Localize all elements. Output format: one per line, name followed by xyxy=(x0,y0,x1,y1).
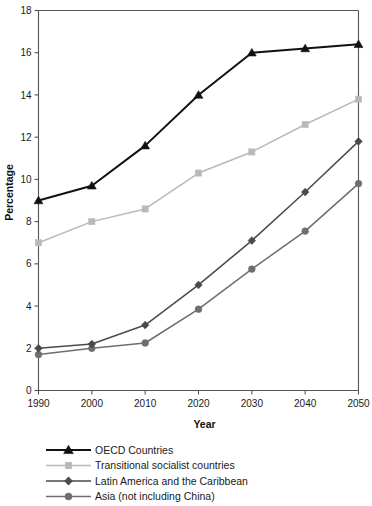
x-tick-label: 2020 xyxy=(187,398,210,409)
y-tick-label: 0 xyxy=(26,385,32,396)
legend-label: OECD Countries xyxy=(95,444,173,456)
data-point xyxy=(302,228,309,235)
data-point xyxy=(355,180,362,187)
plot-frame xyxy=(39,11,359,391)
y-tick-label: 4 xyxy=(26,301,32,312)
axis-layer xyxy=(39,11,359,391)
y-tick-label: 8 xyxy=(26,216,32,227)
legend-label: Latin America and the Caribbean xyxy=(95,475,248,487)
legend-diamond-marker xyxy=(65,477,73,485)
chart-canvas: 024681012141618 199020002010202020302040… xyxy=(0,0,372,506)
series-3 xyxy=(35,180,362,358)
legend-label: Transitional socialist countries xyxy=(95,459,235,471)
x-tick-label: 2000 xyxy=(81,398,104,409)
data-point xyxy=(195,306,202,313)
x-tick-label: 2050 xyxy=(347,398,370,409)
x-tick-layer: 1990200020102020203020402050 xyxy=(27,391,370,409)
y-tick-label: 14 xyxy=(20,90,32,101)
y-tick-label: 18 xyxy=(20,5,32,16)
data-point xyxy=(142,340,149,347)
data-point xyxy=(142,206,148,212)
data-point xyxy=(195,170,201,176)
series-line xyxy=(39,184,359,355)
y-tick-label: 10 xyxy=(20,174,32,185)
legend-square-marker xyxy=(65,462,72,469)
x-tick-label: 1990 xyxy=(27,398,50,409)
data-point xyxy=(355,96,361,102)
x-tick-label: 2030 xyxy=(241,398,264,409)
data-point xyxy=(248,266,255,273)
series-0 xyxy=(34,40,363,204)
y-tick-label: 6 xyxy=(26,258,32,269)
data-point xyxy=(302,121,308,127)
legend-layer: OECD CountriesTransitional socialist cou… xyxy=(46,444,248,503)
legend-item: Latin America and the Caribbean xyxy=(46,475,248,487)
y-tick-label: 12 xyxy=(20,132,32,143)
legend-label: Asia (not including China) xyxy=(95,490,215,502)
x-tick-label: 2040 xyxy=(294,398,317,409)
data-point xyxy=(249,149,255,155)
x-tick-label: 2010 xyxy=(134,398,157,409)
legend-item: Transitional socialist countries xyxy=(46,459,235,471)
legend-item: OECD Countries xyxy=(46,444,173,456)
x-axis-title: Year xyxy=(193,418,215,430)
data-point xyxy=(35,240,41,246)
line-chart: 024681012141618 199020002010202020302040… xyxy=(0,0,372,506)
series-layer xyxy=(34,40,363,358)
y-tick-label: 16 xyxy=(20,47,32,58)
legend-circle-marker xyxy=(65,493,72,500)
y-axis-title: Percentage xyxy=(3,164,15,221)
data-point xyxy=(89,218,95,224)
series-1 xyxy=(35,96,361,246)
y-tick-label: 2 xyxy=(26,343,32,354)
data-point xyxy=(35,344,42,352)
legend-item: Asia (not including China) xyxy=(46,490,215,502)
